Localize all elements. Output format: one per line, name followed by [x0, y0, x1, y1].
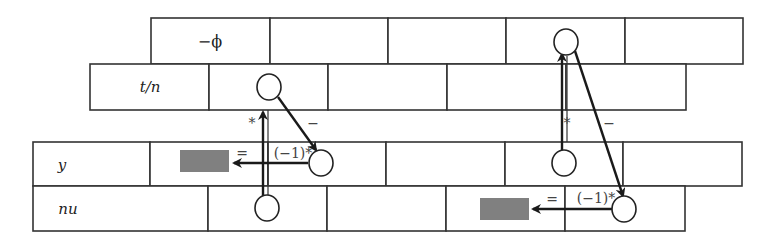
- node-circle-nu-left: [255, 195, 279, 221]
- minus-label-right: −: [603, 115, 615, 131]
- node-circle-tn-left: [257, 74, 281, 100]
- equals-label-left: =: [236, 145, 248, 161]
- row-label-tn: t/n: [140, 78, 161, 96]
- cell-phi-4: [625, 18, 743, 64]
- row-tn: t/n: [90, 64, 686, 110]
- row-label-phi: −ϕ: [198, 32, 222, 51]
- sliding-stencil-diagram: −ϕ t/n y nu: [0, 0, 782, 247]
- minus-label-left: −: [307, 115, 319, 131]
- result-box-left: [180, 150, 229, 172]
- row-phi: −ϕ: [151, 18, 743, 64]
- equals-label-right: =: [546, 191, 558, 207]
- node-circle-y-right: [552, 150, 576, 176]
- cell-y-label: [33, 142, 150, 186]
- star-label-left: *: [249, 115, 256, 131]
- result-box-right: [480, 198, 529, 220]
- node-circle-y-left: [309, 150, 333, 176]
- cell-tn-3: [447, 64, 566, 110]
- row-label-y: y: [57, 156, 67, 174]
- star-label-right: *: [564, 115, 571, 131]
- cell-tn-2: [328, 64, 447, 110]
- factor-label-right: (−1)*: [577, 190, 616, 206]
- cell-phi-1: [270, 18, 388, 64]
- cell-nu-2: [327, 186, 446, 231]
- cell-phi-2: [388, 18, 506, 64]
- node-circle-nu-right: [612, 196, 636, 222]
- node-circle-phi-right: [554, 29, 578, 55]
- cell-y-3: [386, 142, 505, 186]
- cell-tn-4: [566, 64, 686, 110]
- cell-y-5: [623, 142, 742, 186]
- row-label-nu: nu: [58, 200, 77, 218]
- factor-label-left: (−1)*: [274, 145, 313, 161]
- row-y: y: [33, 142, 742, 186]
